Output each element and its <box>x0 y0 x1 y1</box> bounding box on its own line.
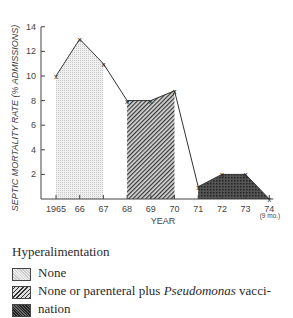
x-marker-icon: x <box>125 97 129 106</box>
legend-item-vaccination: None or parenteral plus Pseudomonas vacc… <box>12 284 290 299</box>
y-tick-label: 8 <box>31 96 36 106</box>
x-tick-label: 70 <box>169 204 179 214</box>
x-note: (9 mo.) <box>260 212 281 220</box>
x-tick-label: 68 <box>122 204 132 214</box>
x-marker-icon: x <box>173 87 177 96</box>
legend-item-hyperalimentation: nation <box>12 302 290 317</box>
x-tick-label: 72 <box>217 204 227 214</box>
y-tick-label: 2 <box>31 169 36 179</box>
x-marker-icon: x <box>220 170 224 179</box>
x-tick-label: 71 <box>193 204 203 214</box>
x-axis-label: YEAR <box>151 216 176 226</box>
x-marker-icon: x <box>149 97 153 106</box>
x-tick-label: 66 <box>75 204 85 214</box>
x-marker-icon: x <box>196 183 200 192</box>
x-marker-icon: x <box>78 35 82 44</box>
shaded-regions <box>56 39 269 199</box>
y-axis-label: SEPTIC MORTALITY RATE (% ADMISSIONS) <box>10 25 20 212</box>
y-tick-label: 14 <box>26 22 36 32</box>
chart: 24681012141965666768697071727374 xxxxxxx… <box>0 0 293 240</box>
legend-title: Hyperalimentation <box>12 244 290 260</box>
x-marker-icon: x <box>267 195 271 204</box>
y-tick-label: 4 <box>31 145 36 155</box>
x-marker-icon: x <box>54 72 58 81</box>
y-tick-label: 10 <box>26 71 36 81</box>
crosshatch-swatch-icon <box>12 304 31 317</box>
x-marker-icon: x <box>244 170 248 179</box>
x-tick-label: 73 <box>241 204 251 214</box>
shaded-region <box>198 174 269 199</box>
y-tick-label: 12 <box>26 46 36 56</box>
shaded-region <box>127 91 174 199</box>
shaded-region <box>56 39 103 199</box>
y-tick-label: 6 <box>31 120 36 130</box>
legend-item-none: None <box>12 266 290 281</box>
x-tick-label: 69 <box>146 204 156 214</box>
x-tick-label: 67 <box>98 204 108 214</box>
stipple-swatch-icon <box>12 268 31 281</box>
x-marker-icon: x <box>101 60 105 69</box>
x-tick-label: 1965 <box>46 204 66 214</box>
legend: Hyperalimentation None None or parentera… <box>12 244 290 318</box>
hatch-swatch-icon <box>12 286 31 299</box>
